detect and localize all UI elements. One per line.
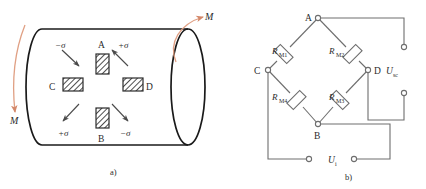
node-C [265, 67, 270, 72]
resistor-label-RM2: R M2 [328, 46, 344, 58]
stress-label-bottom-left: +σ [58, 128, 69, 138]
resistor-RM4-letter: R [271, 92, 278, 102]
gauge-label-B: B [98, 134, 104, 144]
torque-label-right: M [204, 11, 214, 22]
torque-label-left: M [9, 115, 19, 126]
resistor-RM4-subscript: M4 [279, 98, 287, 104]
shaft-right-ellipse [171, 29, 205, 145]
bridge-nodes [265, 15, 370, 126]
strain-gauge-C [63, 78, 83, 91]
gauge-label-C: C [49, 82, 55, 92]
ui-subscript: i [335, 161, 337, 167]
strain-gauge-A [96, 54, 109, 74]
node-A [315, 15, 320, 20]
stress-label-top-left: −σ [55, 40, 66, 50]
bridge-node-label-D: D [374, 66, 381, 76]
strain-gauge-D [123, 78, 143, 91]
terminal-ui-right [351, 156, 356, 161]
resistor-RM1-letter: R [271, 46, 278, 56]
terminal-ui-left [306, 156, 311, 161]
bridge-external-wires [268, 18, 404, 159]
bridge-node-label-B: B [314, 131, 320, 141]
figure-root: A B C D −σ +σ +σ −σ M M [0, 0, 426, 189]
resistor-RM2-subscript: M2 [336, 52, 344, 58]
node-B [315, 121, 320, 126]
bridge-node-label-C: C [254, 66, 260, 76]
resistor-RM4-body [287, 90, 306, 109]
torque-arrow-left [14, 25, 25, 112]
resistor-RM1-subscript: M1 [279, 52, 287, 58]
gauge-label-A: A [98, 40, 105, 50]
resistor-label-RM4: R M4 [271, 92, 287, 104]
resistor-RM2-letter: R [328, 46, 335, 56]
bridge-node-label-A: A [305, 13, 312, 23]
resistor-RM2-body [343, 44, 362, 63]
bridge-terminals [306, 44, 406, 161]
stress-arrow-bottom-right [112, 104, 128, 121]
node-D [365, 67, 370, 72]
terminal-usc-bottom [401, 90, 406, 95]
stress-label-bottom-right: −σ [120, 128, 131, 138]
resistor-RM3-subscript: M3 [336, 98, 344, 104]
bridge-diamond-wires [268, 18, 368, 124]
output-voltage-label: U sc [386, 66, 398, 78]
shaft-left-arc [26, 29, 42, 145]
panel-caption-b: b) [345, 172, 352, 182]
strain-gauge-B [96, 108, 109, 128]
technical-figure: A B C D −σ +σ +σ −σ M M [0, 0, 426, 189]
stress-arrow-bottom-left [63, 104, 79, 121]
stress-label-top-right: +σ [118, 40, 129, 50]
usc-subscript: sc [393, 72, 398, 78]
stress-arrow-top-right [112, 50, 128, 66]
stress-arrow-top-left [62, 50, 79, 66]
resistor-RM3-letter: R [328, 92, 335, 102]
input-voltage-label: U i [328, 155, 337, 167]
terminal-usc-top [401, 44, 406, 49]
gauge-label-D: D [146, 82, 153, 92]
panel-caption-a: a) [110, 167, 117, 177]
